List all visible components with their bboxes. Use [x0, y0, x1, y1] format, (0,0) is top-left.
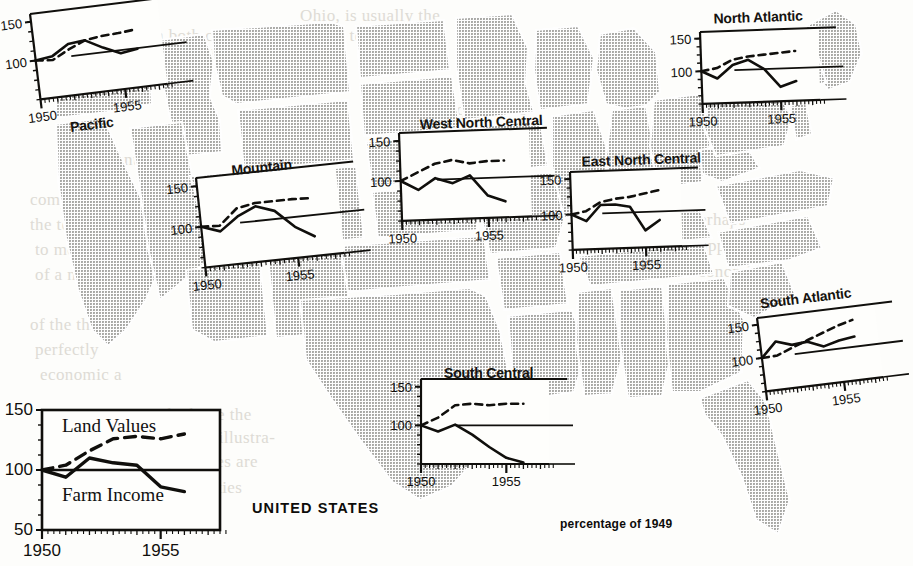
y-tick-label: 150 — [390, 380, 412, 395]
state-montana — [212, 22, 350, 104]
chart-panel-east-north-central: 15010019501955East North Central — [523, 141, 714, 285]
x-tick-label: 1955 — [112, 97, 143, 115]
y-tick-label: 150 — [539, 172, 561, 188]
state-michigan — [596, 28, 660, 112]
x-tick-label: 1955 — [475, 227, 504, 243]
chart-panel-north-atlantic: 15010019501955North Atlantic — [653, 1, 851, 140]
y-tick-label: 100 — [4, 55, 27, 73]
chart-panel-south-central: 15010019501955South Central — [375, 353, 579, 498]
page-title: UNITED STATES — [252, 500, 379, 516]
chart-panel-mountain: 15010019501955Mountain — [148, 134, 378, 306]
chart-panel-united-states: 1501005019501955Land ValuesFarm Income — [0, 384, 250, 564]
x-tick-label: 1950 — [407, 474, 436, 489]
y-tick-label: 100 — [670, 65, 692, 81]
chart-svg-united-states: 1501005019501955 — [0, 384, 250, 564]
series-label-farm-income: Farm Income — [62, 484, 164, 506]
y-tick-label: 150 — [5, 400, 33, 419]
x-tick-label: 1955 — [492, 474, 521, 489]
y-tick-label: 100 — [390, 418, 412, 433]
y-tick-label: 150 — [0, 16, 23, 34]
x-tick-label: 1955 — [632, 257, 661, 273]
x-tick-label: 1950 — [192, 276, 222, 294]
x-tick-label: 1950 — [753, 400, 784, 418]
y-tick-label: 150 — [669, 32, 691, 48]
state-alabama — [620, 286, 670, 398]
y-tick-label: 100 — [731, 352, 754, 370]
chart-title-south-central: South Central — [444, 365, 533, 381]
chart-title-north-atlantic: North Atlantic — [713, 7, 803, 26]
x-tick-label: 1950 — [688, 113, 717, 129]
y-tick-label: 100 — [541, 208, 563, 224]
y-tick-label: 150 — [726, 319, 749, 337]
x-tick-label: 1955 — [767, 111, 796, 127]
y-tick-label: 50 — [14, 520, 33, 539]
y-tick-label: 150 — [166, 180, 189, 197]
y-tick-label: 150 — [368, 134, 390, 150]
x-tick-label: 1955 — [142, 541, 180, 560]
y-tick-label: 100 — [5, 460, 33, 479]
state-north-dakota — [356, 20, 450, 78]
chart-panel-south-atlantic: 15010019501955South Atlantic — [708, 274, 913, 431]
y-tick-label: 100 — [170, 221, 193, 238]
x-tick-label: 1950 — [388, 230, 417, 246]
x-tick-label: 1955 — [285, 266, 315, 284]
units-note: percentage of 1949 — [560, 517, 672, 531]
x-tick-label: 1950 — [27, 108, 58, 126]
state-wisconsin — [534, 26, 594, 110]
series-label-land-values: Land Values — [62, 415, 156, 437]
x-tick-label: 1950 — [559, 259, 588, 275]
state-mississippi — [576, 288, 622, 396]
x-tick-label: 1950 — [23, 541, 61, 560]
y-tick-label: 100 — [370, 174, 392, 190]
x-tick-label: 1955 — [831, 390, 862, 408]
